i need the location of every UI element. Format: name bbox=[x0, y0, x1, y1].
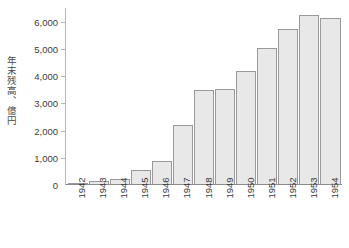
x-axis-tick-cell: 1947 bbox=[172, 187, 192, 235]
x-axis-tick-label: 1945 bbox=[140, 177, 150, 198]
bar-series bbox=[66, 8, 342, 184]
x-axis-tick-cell: 1943 bbox=[88, 187, 108, 235]
bar bbox=[194, 90, 214, 184]
x-axis-tick-label: 1943 bbox=[98, 177, 108, 198]
figure-caption bbox=[0, 240, 349, 248]
x-axis-tick-label: 1946 bbox=[161, 177, 171, 198]
y-axis-tick-mark bbox=[61, 76, 65, 77]
x-axis-tick-label: 1944 bbox=[119, 177, 129, 198]
x-axis-tick-cell: 1951 bbox=[257, 187, 277, 235]
x-axis-tick-labels: 1942194319441945194619471948194919501951… bbox=[65, 187, 342, 235]
y-axis-tick-label: 3,000 bbox=[18, 99, 58, 109]
bar bbox=[257, 48, 277, 184]
x-axis-tick-label: 1954 bbox=[330, 177, 340, 198]
x-axis-tick-label: 1951 bbox=[267, 177, 277, 198]
y-axis-tick-mark bbox=[61, 22, 65, 23]
x-axis-tick-label: 1953 bbox=[309, 177, 319, 198]
bar bbox=[215, 89, 235, 184]
y-axis-tick-label: 6,000 bbox=[18, 17, 58, 27]
x-axis-tick-cell: 1948 bbox=[193, 187, 213, 235]
plot-area bbox=[65, 8, 342, 185]
bar bbox=[236, 71, 256, 184]
x-axis-tick-label: 1948 bbox=[204, 177, 214, 198]
y-axis-tick-label: 5,000 bbox=[18, 44, 58, 54]
x-axis-tick-label: 1949 bbox=[225, 177, 235, 198]
y-axis-tick-labels: 01,0002,0003,0004,0005,0006,000 bbox=[18, 0, 58, 248]
x-axis-tick-cell: 1946 bbox=[151, 187, 171, 235]
y-axis-tick-mark bbox=[61, 131, 65, 132]
x-axis-tick-label: 1947 bbox=[182, 177, 192, 198]
y-axis-tick-mark bbox=[61, 103, 65, 104]
y-axis-tick-label: 2,000 bbox=[18, 126, 58, 136]
x-axis-tick-cell: 1944 bbox=[109, 187, 129, 235]
x-axis-tick-label: 1950 bbox=[246, 177, 256, 198]
bar bbox=[320, 18, 340, 184]
x-axis-tick-cell: 1949 bbox=[215, 187, 235, 235]
x-axis-tick-cell: 1945 bbox=[130, 187, 150, 235]
x-axis-tick-cell: 1953 bbox=[299, 187, 319, 235]
bar bbox=[173, 125, 193, 184]
y-axis-tick-mark bbox=[61, 158, 65, 159]
x-axis-tick-label: 1942 bbox=[77, 177, 87, 198]
bar-chart-figure: 年末残高、億円 01,0002,0003,0004,0005,0006,000 … bbox=[0, 0, 349, 248]
y-axis-tick-label: 0 bbox=[18, 181, 58, 191]
y-axis-title: 年末残高、億円 bbox=[2, 56, 16, 126]
y-axis-tick-label: 4,000 bbox=[18, 72, 58, 82]
x-axis-tick-cell: 1942 bbox=[67, 187, 87, 235]
x-axis-tick-cell: 1950 bbox=[236, 187, 256, 235]
bar bbox=[299, 15, 319, 184]
y-axis-tick-label: 1,000 bbox=[18, 153, 58, 163]
x-axis-tick-cell: 1954 bbox=[320, 187, 340, 235]
x-axis-tick-label: 1952 bbox=[288, 177, 298, 198]
x-axis-tick-cell: 1952 bbox=[278, 187, 298, 235]
bar bbox=[278, 29, 298, 184]
y-axis-tick-mark bbox=[61, 49, 65, 50]
